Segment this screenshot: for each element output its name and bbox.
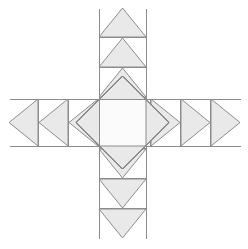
left-geese-2 [39,99,68,146]
bottom-geese-2 [99,179,146,208]
center-square-in-square [76,76,169,169]
left-geese-1 [9,99,38,146]
quilt-block-figure: Flying Geese Cross Quilt Block Symmetric… [0,0,248,249]
right-geese-1 [211,99,240,146]
right-geese-2 [181,99,210,146]
top-geese-1 [99,8,146,37]
quilt-block-diagram: Flying Geese Cross Quilt Block Symmetric… [0,0,248,249]
top-geese-2 [99,38,146,67]
bottom-geese-1 [99,209,146,238]
center-inner-square [100,100,147,147]
